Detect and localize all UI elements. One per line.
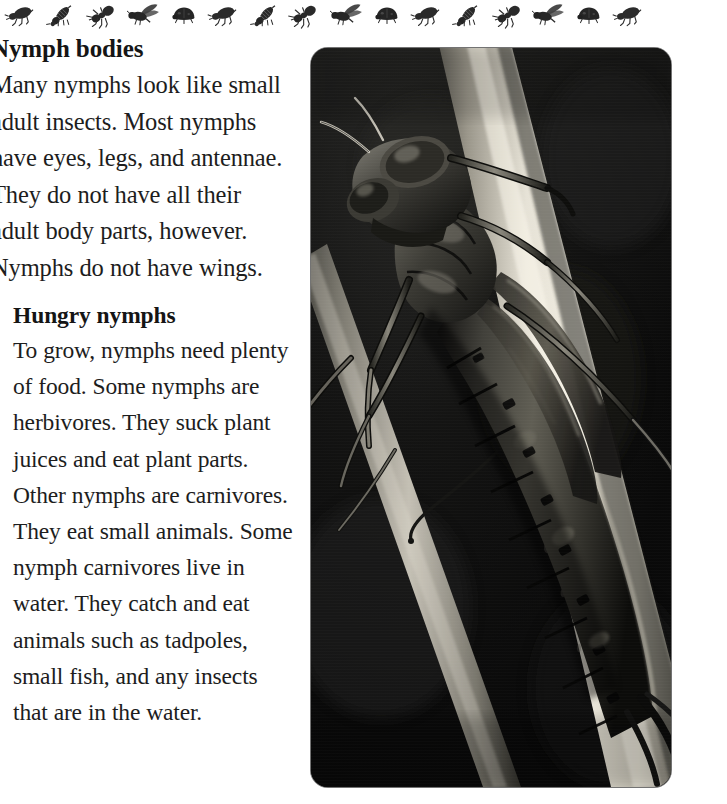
dragonfly-nymph-photograph: [311, 48, 671, 787]
flying-wasp-icon: [532, 2, 566, 30]
heading-hungry-nymphs: Hungry nymphs: [13, 300, 293, 330]
section-hungry-nymphs: Hungry nymphs To grow, nymphs need plent…: [13, 300, 293, 730]
beetle-icon: [612, 2, 646, 30]
beetle-icon: [410, 2, 444, 30]
section-nymph-bodies: Nymph bodies Many nymphs look like small…: [0, 34, 291, 286]
book-page: Nymph bodies Many nymphs look like small…: [0, 0, 727, 804]
wasp-icon: [248, 2, 282, 30]
paragraph-hungry-nymphs: To grow, nymphs need plenty of food. Som…: [13, 332, 293, 730]
ladybug-icon: [167, 2, 201, 30]
heading-nymph-bodies: Nymph bodies: [0, 34, 291, 64]
wasp-icon: [44, 2, 78, 30]
ladybug-icon: [572, 2, 606, 30]
wasp-icon: [450, 2, 484, 30]
text-column: Nymph bodies Many nymphs look like small…: [0, 34, 300, 804]
flying-wasp-icon: [330, 2, 364, 30]
ladybug-icon: [370, 2, 404, 30]
flying-wasp-icon: [127, 2, 161, 30]
ant-icon: [86, 2, 120, 30]
beetle-icon: [207, 2, 241, 30]
ant-icon: [288, 2, 322, 30]
ant-icon: [492, 2, 526, 30]
paragraph-nymph-bodies: Many nymphs look like small adult insect…: [0, 67, 291, 286]
beetle-icon: [4, 2, 38, 30]
insect-border-strip: [0, 0, 727, 32]
